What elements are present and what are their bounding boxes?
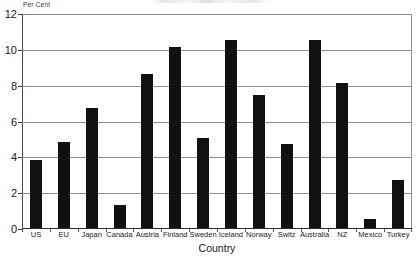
- x-tick-label: Turkey: [387, 231, 410, 239]
- plot-area: [22, 14, 412, 229]
- plot-border-top: [22, 14, 412, 15]
- gridline: [22, 50, 412, 51]
- x-tick-label: Switz: [278, 231, 296, 239]
- x-tick-label: NZ: [337, 231, 347, 239]
- gridline: [22, 157, 412, 158]
- bar: [392, 180, 404, 228]
- bar: [253, 95, 265, 228]
- x-tick-label: EU: [59, 231, 69, 239]
- bar: [336, 83, 348, 228]
- y-axis-tick-labels: 024681012: [0, 0, 17, 257]
- bar: [169, 47, 181, 228]
- x-tick-label: Finland: [163, 231, 188, 239]
- bar: [30, 160, 42, 228]
- y-tick-label: 4: [2, 152, 17, 163]
- x-tick-label: Canada: [106, 231, 132, 239]
- x-tick-label: Austria: [136, 231, 159, 239]
- bar: [225, 40, 237, 228]
- y-tick-mark: [18, 86, 22, 87]
- bar: [364, 219, 376, 228]
- x-tick-label: Sweden: [190, 231, 217, 239]
- y-tick-mark: [18, 157, 22, 158]
- x-tick-label: US: [31, 231, 41, 239]
- gridline: [22, 193, 412, 194]
- x-tick-label: Mexico: [358, 231, 382, 239]
- cropped-title-sliver: [150, 0, 270, 3]
- x-tick-label: Norway: [246, 231, 271, 239]
- y-tick-label: 12: [2, 9, 17, 20]
- y-axis-title: Per Cent: [23, 1, 50, 8]
- bar: [281, 144, 293, 228]
- gridline: [22, 86, 412, 87]
- x-tick-label: Iceland: [219, 231, 243, 239]
- y-tick-mark: [18, 14, 22, 15]
- y-tick-mark: [18, 122, 22, 123]
- bar-chart: Per Cent 024681012 USEUJapanCanadaAustri…: [0, 0, 420, 257]
- bar: [58, 142, 70, 228]
- y-tick-label: 8: [2, 80, 17, 91]
- y-tick-label: 10: [2, 44, 17, 55]
- bar: [197, 138, 209, 228]
- y-tick-mark: [18, 193, 22, 194]
- bar: [141, 74, 153, 228]
- gridline: [22, 122, 412, 123]
- bar: [86, 108, 98, 228]
- y-tick-mark: [18, 50, 22, 51]
- bar: [309, 40, 321, 228]
- bar: [114, 205, 126, 228]
- x-axis-title: Country: [22, 243, 412, 254]
- x-tick-label: Japan: [81, 231, 101, 239]
- y-tick-label: 6: [2, 116, 17, 127]
- y-tick-label: 2: [2, 188, 17, 199]
- x-tick-label: Australia: [300, 231, 329, 239]
- y-tick-label: 0: [2, 224, 17, 235]
